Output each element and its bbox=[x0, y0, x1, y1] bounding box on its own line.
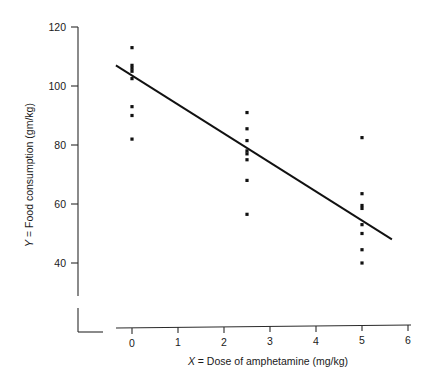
y-tick-label-60: 60 bbox=[54, 198, 66, 210]
data-point bbox=[245, 139, 248, 142]
data-point bbox=[360, 261, 363, 264]
data-point bbox=[130, 138, 133, 141]
y-axis-title: Y = Food consumption (gm/kg) bbox=[23, 103, 35, 247]
y-tick-label-120: 120 bbox=[48, 21, 66, 33]
y-tick-label-40: 40 bbox=[54, 257, 66, 269]
data-point bbox=[130, 46, 133, 49]
regression-fit-line bbox=[116, 65, 392, 239]
data-point bbox=[130, 114, 133, 117]
plot-area: 120 100 80 60 40 Y = Food consumption (g… bbox=[0, 0, 432, 383]
data-point bbox=[360, 248, 363, 251]
data-point bbox=[360, 136, 363, 139]
data-point bbox=[360, 223, 363, 226]
data-point bbox=[130, 70, 133, 73]
x-tick-label-3: 3 bbox=[267, 335, 273, 347]
x-axis-title-rest: = Dose of amphetamine (mg/kg) bbox=[195, 355, 348, 367]
data-point bbox=[245, 152, 248, 155]
data-point bbox=[130, 105, 133, 108]
x-tick-label-0: 0 bbox=[129, 337, 135, 349]
data-point bbox=[130, 64, 133, 67]
data-point bbox=[130, 67, 133, 70]
y-axis-title-group: Y = Food consumption (gm/kg) bbox=[23, 103, 35, 247]
y-axis-title-rest: = Food consumption (gm/kg) bbox=[23, 103, 35, 240]
data-point bbox=[245, 149, 248, 152]
data-point bbox=[130, 77, 133, 80]
x-tick-label-4: 4 bbox=[313, 335, 319, 347]
x-axis-group: 0 1 2 3 4 5 6 X = Dose of amphetamine (m… bbox=[116, 325, 411, 367]
data-point bbox=[245, 127, 248, 130]
data-point bbox=[245, 213, 248, 216]
data-point bbox=[360, 207, 363, 210]
data-point bbox=[245, 158, 248, 161]
y-tick-label-100: 100 bbox=[48, 80, 66, 92]
data-point bbox=[360, 232, 363, 235]
data-point bbox=[360, 192, 363, 195]
x-tick-label-5: 5 bbox=[359, 334, 365, 346]
y-axis-group: 120 100 80 60 40 bbox=[48, 21, 103, 332]
y-tick-label-80: 80 bbox=[54, 139, 66, 151]
x-axis-line bbox=[116, 325, 411, 328]
data-point bbox=[245, 111, 248, 114]
x-tick-label-1: 1 bbox=[175, 336, 181, 348]
data-points-layer bbox=[130, 46, 363, 265]
data-point bbox=[245, 179, 248, 182]
x-tick-label-6: 6 bbox=[405, 334, 411, 346]
data-point bbox=[360, 204, 363, 207]
x-tick-label-2: 2 bbox=[221, 336, 227, 348]
x-axis-title: X = Dose of amphetamine (mg/kg) bbox=[187, 355, 348, 367]
scatter-plot-figure: 120 100 80 60 40 Y = Food consumption (g… bbox=[0, 0, 432, 383]
